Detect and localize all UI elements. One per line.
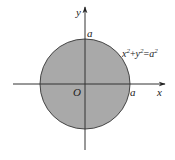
y-intercept-label: a: [87, 27, 93, 39]
x-axis-label: x: [156, 86, 162, 98]
eq-a-exp: 2: [154, 47, 158, 55]
x-intercept-label: a: [130, 86, 136, 98]
origin-label: O: [73, 86, 81, 98]
diagram-canvas: y x O a a x2+y2=a2: [0, 0, 175, 160]
y-axis-label: y: [75, 6, 81, 18]
circle-equation: x2+y2=a2: [121, 47, 158, 59]
circle-diagram: y x O a a x2+y2=a2: [0, 0, 175, 160]
